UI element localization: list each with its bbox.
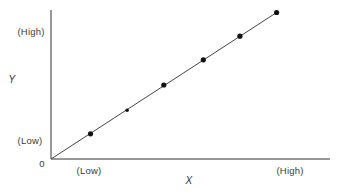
y-axis-title: Y (9, 75, 16, 85)
origin-label: 0 (39, 159, 44, 169)
data-point (125, 108, 129, 112)
data-point (237, 34, 242, 39)
data-point (88, 131, 93, 136)
y-high-label: (High) (17, 27, 44, 37)
y-low-label: (Low) (18, 136, 43, 146)
x-low-label: (Low) (77, 166, 102, 176)
line-chart (0, 0, 341, 193)
data-point (161, 82, 166, 87)
data-point (274, 10, 279, 15)
x-axis-title: X (186, 176, 193, 186)
data-point (201, 57, 206, 62)
x-high-label: (High) (276, 166, 303, 176)
